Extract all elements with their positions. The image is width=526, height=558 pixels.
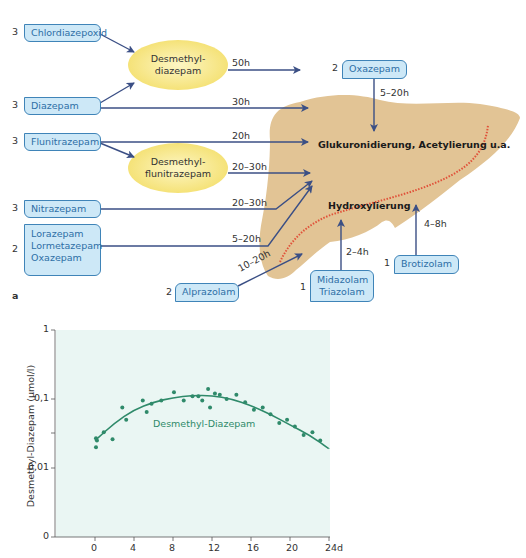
y-axis-label: Desmethyl-Diazepam (µmol/l): [25, 365, 36, 507]
data-point: [124, 418, 128, 422]
x-tick-label: 24d: [325, 542, 343, 553]
drug-name: Flunitrazepam: [31, 136, 99, 147]
drug-box-lorazepam-group: Lorazepam Lormetazepam Oxazepam: [24, 224, 101, 276]
data-point: [252, 408, 256, 412]
data-point: [310, 430, 314, 434]
drug-name: Alprazolam: [182, 286, 235, 297]
x-tick-label: 0: [91, 542, 97, 553]
data-point: [243, 400, 247, 404]
desmethyl-flunitrazepam-label: Desmethyl-flunitrazepam: [128, 155, 228, 181]
liver-shape: [260, 95, 520, 279]
data-point: [225, 397, 229, 401]
data-point: [318, 439, 322, 443]
halflife-label: 2–4h: [346, 246, 369, 257]
halflife-label: 30h: [232, 96, 250, 107]
drug-box-oxazepam-top: Oxazepam: [342, 60, 407, 79]
halflife-label: 5–20h: [380, 87, 409, 98]
drug-name: Chlordiazepoxid: [31, 27, 107, 38]
class-number: 3: [12, 135, 18, 146]
drug-box-flunitrazepam: Flunitrazepam: [24, 133, 101, 151]
class-number: 1: [300, 281, 306, 292]
drug-name: Oxazepam: [349, 63, 400, 74]
class-number: 1: [384, 257, 390, 268]
class-number: 2: [12, 243, 18, 254]
data-point: [302, 433, 306, 437]
class-number: 3: [12, 26, 18, 37]
desmethyl-diazepam-label: Desmethyl-diazepam: [128, 52, 228, 78]
class-number: 2: [332, 62, 338, 73]
drug-box-diazepam: Diazepam: [24, 97, 101, 115]
halflife-label: 20h: [232, 130, 250, 141]
data-point: [150, 402, 154, 406]
data-point: [293, 424, 297, 428]
halflife-label: 20–30h: [232, 197, 267, 208]
drug-name: Lorazepam: [31, 228, 94, 240]
halflife-label: 5–20h: [232, 233, 261, 244]
drug-name: Midazolam: [317, 274, 367, 286]
data-point: [159, 399, 163, 403]
concentration-chart: [0, 310, 526, 558]
drug-name: Brotizolam: [401, 258, 452, 269]
data-point: [213, 392, 217, 396]
data-point: [120, 406, 124, 410]
x-tick-label: 16: [247, 542, 259, 553]
drug-box-chlordiazepoxid: Chlordiazepoxid: [24, 24, 101, 42]
drug-name: Lormetazepam: [31, 240, 94, 252]
halflife-label: 50h: [232, 57, 250, 68]
x-tick-label: 8: [169, 542, 175, 553]
data-point: [285, 418, 289, 422]
liver-label-glucuronidation: Glukuronidierung, Acetylierung u.a.: [318, 139, 510, 150]
y-tick-label: 1: [43, 323, 49, 334]
data-point: [277, 421, 281, 425]
data-point: [196, 394, 200, 398]
x-tick-label: 12: [208, 542, 220, 553]
drug-name: Nitrazepam: [31, 203, 86, 214]
class-number: 3: [12, 99, 18, 110]
drug-name: Triazolam: [317, 286, 367, 298]
data-point: [218, 393, 222, 397]
data-point: [141, 399, 145, 403]
data-point: [94, 445, 98, 449]
series-annotation: Desmethyl-Diazepam: [153, 418, 255, 429]
liver-label-hydroxylation: Hydroxylierung: [328, 200, 410, 211]
data-point: [145, 410, 149, 414]
y-tick-label: 0,01: [28, 461, 49, 472]
data-point: [111, 437, 115, 441]
class-number: 2: [166, 286, 172, 297]
y-tick-label: 0: [43, 530, 49, 541]
data-point: [172, 390, 176, 394]
panel-label: a: [12, 290, 18, 301]
drug-box-brotizolam: Brotizolam: [394, 255, 459, 274]
data-point: [208, 406, 212, 410]
halflife-label: 4–8h: [424, 218, 447, 229]
data-point: [182, 399, 186, 403]
data-point: [234, 393, 238, 397]
halflife-label: 20–30h: [232, 161, 267, 172]
drug-box-alprazolam: Alprazolam: [175, 283, 239, 302]
drug-box-nitrazepam: Nitrazepam: [24, 200, 101, 218]
data-point: [191, 394, 195, 398]
drug-box-midazolam-group: Midazolam Triazolam: [310, 270, 374, 302]
x-tick-label: 4: [130, 542, 136, 553]
data-point: [206, 387, 210, 391]
drug-name: Oxazepam: [31, 252, 94, 264]
data-point: [102, 430, 106, 434]
data-point: [269, 412, 273, 416]
class-number: 3: [12, 202, 18, 213]
x-tick-label: 20: [286, 542, 298, 553]
drug-name: Diazepam: [31, 100, 79, 111]
y-tick-label: 0,1: [34, 392, 49, 403]
data-point: [261, 406, 265, 410]
data-point: [200, 399, 204, 403]
data-point: [95, 439, 99, 443]
